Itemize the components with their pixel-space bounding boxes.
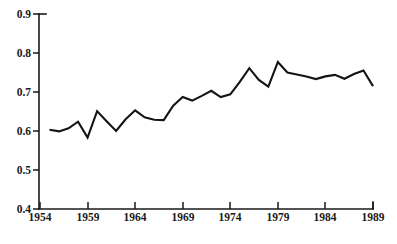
x-axis-label: 1969 (172, 211, 195, 223)
y-axis-tick-labels: 0.90.80.70.60.50.4 (17, 8, 32, 215)
x-axis-label: 1959 (77, 211, 100, 223)
x-axis-tick-labels: 19541959196419691974197919841989 (29, 211, 385, 223)
x-axis-label: 1974 (219, 211, 242, 223)
y-axis-ticks (33, 14, 39, 209)
y-axis-label: 0.9 (17, 8, 32, 20)
y-axis-label: 0.5 (17, 164, 32, 176)
data-series-line (50, 62, 373, 138)
y-axis-label: 0.6 (17, 125, 32, 137)
x-axis-label: 1979 (267, 211, 290, 223)
x-axis-label: 1984 (314, 211, 337, 223)
x-axis-label: 1954 (29, 211, 52, 223)
x-axis-label: 1989 (362, 211, 385, 223)
x-axis-label: 1964 (124, 211, 147, 223)
chart-container: 0.90.80.70.60.50.4 195419591964196919741… (0, 0, 397, 244)
line-chart-plot: 0.90.80.70.60.50.4 195419591964196919741… (0, 0, 397, 244)
y-axis-label: 0.7 (17, 86, 32, 98)
y-axis-label: 0.8 (17, 47, 32, 59)
x-axis-ticks (40, 202, 373, 209)
